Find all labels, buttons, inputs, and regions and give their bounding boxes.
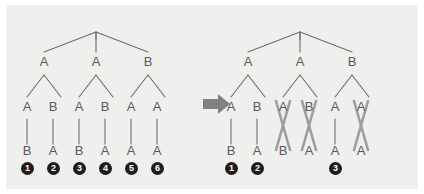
left-leaf-4: A (123, 144, 139, 158)
left-taxon-circle-2: 3 (73, 162, 86, 175)
right-level2-node-1: B (249, 100, 265, 114)
figure-panel: A A B A B A B A A B A B A A A 1 2 3 4 5 … (6, 5, 418, 189)
left-level2-node-0: A (19, 100, 35, 114)
right-level2-node-5: A (353, 100, 369, 114)
right-leaf-4: A (327, 144, 343, 158)
left-leaf-1: A (45, 144, 61, 158)
left-taxon-circle-5: 6 (151, 162, 164, 175)
left-level2-node-5: A (149, 100, 165, 114)
left-leaf-2: B (71, 144, 87, 158)
left-level1-node-0: A (36, 55, 52, 69)
right-level1-node-1: A (292, 55, 308, 69)
left-taxon-circle-0: 1 (21, 162, 34, 175)
right-level2-node-4: A (327, 100, 343, 114)
left-tree-edges (18, 5, 204, 189)
right-level2-node-2: A (275, 100, 291, 114)
right-tree-diagram: A A B A B A B A A B A B A A A 1 2 3 (222, 5, 408, 189)
left-level2-node-3: B (97, 100, 113, 114)
left-level2-node-1: B (45, 100, 61, 114)
figure-root: A A B A B A B A A B A B A A A 1 2 3 4 5 … (0, 0, 424, 194)
right-taxon-circle-0: 1 (225, 162, 238, 175)
right-leaf-3: A (301, 144, 317, 158)
right-level2-node-3: B (301, 100, 317, 114)
right-leaf-0: B (223, 144, 239, 158)
left-level2-node-2: A (71, 100, 87, 114)
right-taxon-circle-2: 3 (329, 162, 342, 175)
right-level1-node-2: B (344, 55, 360, 69)
left-taxon-circle-3: 4 (99, 162, 112, 175)
right-leaf-5: A (353, 144, 369, 158)
left-level2-node-4: A (123, 100, 139, 114)
right-leaf-1: A (249, 144, 265, 158)
left-level1-node-1: A (88, 55, 104, 69)
right-taxon-circle-1: 2 (251, 162, 264, 175)
left-leaf-5: A (149, 144, 165, 158)
left-taxon-circle-1: 2 (47, 162, 60, 175)
left-level1-node-2: B (140, 55, 156, 69)
left-leaf-3: A (97, 144, 113, 158)
right-tree-edges (222, 5, 408, 189)
right-level1-node-0: A (240, 55, 256, 69)
left-leaf-0: B (19, 144, 35, 158)
left-taxon-circle-4: 5 (125, 162, 138, 175)
right-level2-node-0: A (223, 100, 239, 114)
right-leaf-2: B (275, 144, 291, 158)
left-tree-diagram: A A B A B A B A A B A B A A A 1 2 3 4 5 … (18, 5, 204, 189)
